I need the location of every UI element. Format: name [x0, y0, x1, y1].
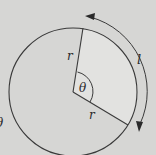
radius-label-upper: r: [67, 50, 73, 62]
diagram-canvas: [0, 0, 156, 155]
radius-label-lower: r: [89, 109, 95, 121]
partial-angle-label-left: θ: [0, 117, 3, 129]
sector-diagram: r θ r l θ: [0, 0, 156, 155]
arrowhead-top-icon: [85, 13, 95, 20]
arrowhead-bottom-icon: [136, 121, 143, 132]
angle-label: θ: [79, 82, 86, 94]
sector-region: [73, 28, 138, 125]
arc-length-label: l: [137, 53, 141, 66]
